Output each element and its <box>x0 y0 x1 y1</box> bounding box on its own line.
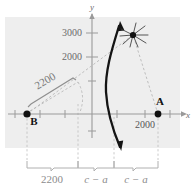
bracket-label-2200: 2200 <box>41 173 64 185</box>
bracket-c-minus-a-right <box>114 161 158 171</box>
x-axis-label: x <box>185 110 190 120</box>
figure-container: y x 3000 2000 2000 A B 2200 2200 c − a c… <box>0 0 194 191</box>
dimension-brackets <box>27 161 158 171</box>
bracket-label-c-minus-a-left: c − a <box>84 173 108 185</box>
bracket-label-c-minus-a-right: c − a <box>124 173 148 185</box>
intersection-point-dot <box>130 32 136 38</box>
hyperbola-diagram: y x 3000 2000 2000 A B 2200 2200 c − a c… <box>0 0 194 191</box>
point-a-label: A <box>156 95 164 107</box>
y-axis-label: y <box>89 2 94 12</box>
point-b-label: B <box>30 115 38 127</box>
x-tick-label-2000: 2000 <box>135 119 155 130</box>
y-tick-label-2000: 2000 <box>62 51 82 62</box>
y-axis-arrow <box>89 13 94 19</box>
point-a-dot <box>155 111 162 118</box>
bracket-2200 <box>27 161 78 171</box>
bracket-c-minus-a-left <box>78 161 114 171</box>
y-tick-label-3000: 3000 <box>62 27 82 38</box>
